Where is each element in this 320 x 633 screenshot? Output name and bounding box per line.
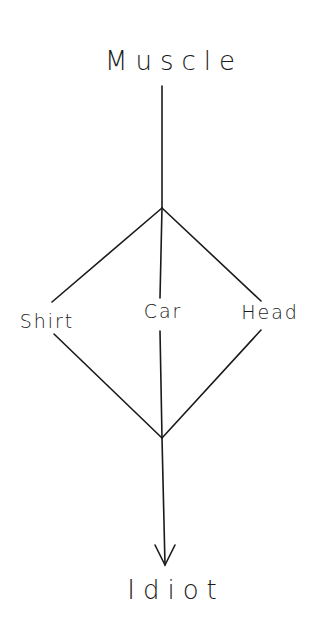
- edge-head-to-junction: [162, 330, 261, 438]
- node-car: Car: [144, 300, 183, 322]
- node-idiot: Idiot: [127, 575, 225, 605]
- edge-junction-to-shirt: [52, 208, 162, 302]
- node-shirt: Shirt: [20, 310, 75, 332]
- edge-shirt-to-junction: [54, 334, 162, 438]
- edge-car-to-junction: [160, 331, 162, 438]
- node-muscle: Muscle: [105, 46, 243, 76]
- edge-junction-to-idiot: [162, 438, 165, 565]
- node-head: Head: [241, 301, 299, 323]
- edge-junction-to-car: [160, 208, 162, 298]
- edge-junction-to-head: [162, 208, 261, 301]
